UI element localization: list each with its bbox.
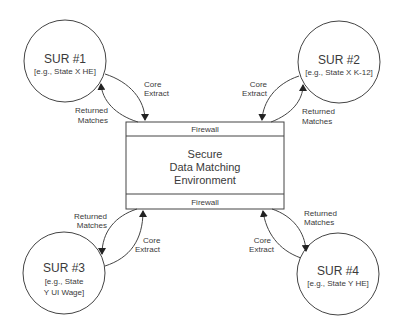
svg-text:[e.g., State Y HE]: [e.g., State Y HE]	[307, 279, 369, 288]
svg-text:Matches: Matches	[78, 116, 108, 125]
svg-text:Returned: Returned	[75, 106, 108, 115]
edge-sur3: Returned Matches Core Extract	[74, 209, 161, 266]
svg-text:SUR #2: SUR #2	[318, 53, 360, 67]
svg-text:Core: Core	[143, 236, 161, 245]
svg-text:Extract: Extract	[249, 245, 275, 254]
svg-text:Matches: Matches	[302, 117, 332, 126]
svg-text:Extract: Extract	[144, 89, 170, 98]
data-matching-diagram: SUR #1 [e.g., State X HE] SUR #2 [e.g., …	[0, 0, 402, 335]
svg-text:SUR #1: SUR #1	[44, 52, 86, 66]
svg-text:Returned: Returned	[74, 212, 107, 221]
svg-text:Core: Core	[254, 236, 272, 245]
secure-environment-box: Firewall Firewall Secure Data Matching E…	[126, 122, 284, 209]
svg-text:[e.g., State: [e.g., State	[45, 277, 84, 286]
svg-text:Returned: Returned	[304, 209, 337, 218]
svg-text:[e.g., State X K-12]: [e.g., State X K-12]	[305, 68, 373, 77]
node-sur2: SUR #2 [e.g., State X K-12]	[298, 21, 380, 103]
svg-text:Data Matching: Data Matching	[170, 161, 241, 173]
svg-text:Matches: Matches	[304, 218, 334, 227]
node-sur4: SUR #4 [e.g., State Y HE]	[297, 233, 379, 315]
firewall-bottom-label: Firewall	[191, 198, 219, 207]
svg-text:[e.g., State X HE]: [e.g., State X HE]	[34, 67, 96, 76]
svg-text:Secure: Secure	[188, 148, 223, 160]
svg-text:Matches: Matches	[77, 221, 107, 230]
svg-text:SUR #4: SUR #4	[317, 264, 359, 278]
svg-text:Core: Core	[250, 80, 268, 89]
edge-sur4: Returned Matches Core Extract	[249, 209, 337, 258]
firewall-top-label: Firewall	[191, 125, 219, 134]
svg-text:Extract: Extract	[242, 89, 268, 98]
edge-sur2: Core Extract Returned Matches	[242, 76, 335, 126]
svg-text:Y UI Wage]: Y UI Wage]	[44, 288, 84, 297]
node-sur1: SUR #1 [e.g., State X HE]	[24, 20, 106, 102]
edge-sur1: Core Extract Returned Matches	[75, 74, 170, 125]
svg-text:Environment: Environment	[174, 174, 236, 186]
svg-text:Extract: Extract	[135, 245, 161, 254]
node-sur3: SUR #3 [e.g., State Y UI Wage]	[23, 232, 105, 314]
svg-text:Core: Core	[144, 80, 162, 89]
svg-text:SUR #3: SUR #3	[43, 261, 85, 275]
svg-text:Returned: Returned	[302, 107, 335, 116]
